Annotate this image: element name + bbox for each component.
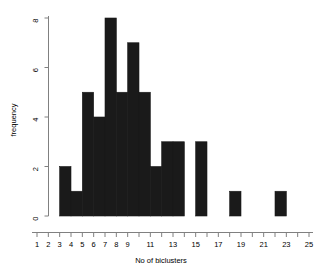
histogram-bar (196, 142, 207, 216)
histogram-bar (150, 167, 161, 217)
y-tick-label: 6 (31, 68, 40, 72)
x-tick-label: 13 (169, 240, 177, 249)
x-tick-label: 11 (146, 240, 154, 249)
x-tick-label: 9 (126, 240, 130, 249)
histogram-bar (94, 117, 105, 216)
y-tick-label: 0 (31, 217, 40, 221)
histogram-bar (71, 191, 82, 216)
histogram-bar (128, 43, 139, 216)
x-tick-label: 7 (103, 240, 107, 249)
histogram-chart: 02468 1234567891113151719212325 No of bi… (0, 0, 323, 275)
y-axis-title: frequency (9, 103, 18, 136)
histogram-bar (275, 191, 286, 216)
x-tick-label: 17 (214, 240, 222, 249)
x-tick-label: 2 (46, 240, 50, 249)
x-tick-label: 19 (237, 240, 245, 249)
chart-canvas: 02468 1234567891113151719212325 No of bi… (0, 0, 323, 275)
x-tick-label: 3 (58, 240, 62, 249)
histogram-bar (173, 142, 184, 216)
histogram-bar (139, 92, 150, 216)
histogram-bar (162, 142, 173, 216)
histogram-bar (82, 92, 93, 216)
histogram-bar (116, 92, 127, 216)
y-tick-label: 2 (31, 167, 40, 171)
histogram-bar (230, 191, 241, 216)
x-tick-label: 21 (259, 240, 267, 249)
histogram-bar (105, 18, 116, 216)
x-tick-label: 6 (92, 240, 96, 249)
x-tick-label: 25 (305, 240, 313, 249)
x-axis-title: No of biclusters (135, 256, 187, 265)
x-tick-label: 1 (35, 240, 39, 249)
x-tick-label: 5 (80, 240, 84, 249)
x-tick-label: 8 (114, 240, 118, 249)
y-tick-label: 4 (31, 118, 40, 122)
x-tick-label: 15 (191, 240, 199, 249)
x-tick-label: 23 (282, 240, 290, 249)
histogram-bar (60, 167, 71, 217)
y-tick-label: 8 (31, 19, 40, 23)
x-tick-label: 4 (69, 240, 73, 249)
